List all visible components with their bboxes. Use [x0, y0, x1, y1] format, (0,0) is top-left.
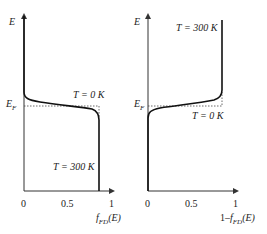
right-x-sub: FD: [233, 218, 242, 226]
left-tick-1: 1: [109, 198, 114, 209]
right-ef-label: EF: [134, 98, 144, 112]
fermi-dirac-plots: [0, 0, 267, 234]
left-t0-annotation: T = 0 K: [73, 89, 104, 100]
right-x-arg: (E): [242, 212, 255, 223]
left-y-label: E: [9, 16, 15, 27]
right-y-label: E: [134, 16, 140, 27]
left-x-sub: FD: [99, 218, 108, 226]
left-x-arg: (E): [108, 212, 121, 223]
right-t0-annotation: T = 0 K: [192, 110, 223, 121]
left-ef-sub: F: [12, 104, 16, 112]
right-ef-sub: F: [140, 104, 144, 112]
right-x-prefix: 1–: [220, 212, 230, 223]
left-x-label: fFD(E): [96, 212, 121, 226]
right-tick-0: 0: [145, 198, 150, 209]
left-tick-0: 0: [21, 198, 26, 209]
right-plot: [148, 16, 236, 191]
right-tick-1: 1: [233, 198, 238, 209]
left-t300-annotation: T = 300 K: [53, 161, 94, 172]
left-ef-label: EF: [6, 98, 16, 112]
right-t300-annotation: T = 300 K: [176, 22, 217, 33]
right-x-label: 1–fFD(E): [220, 212, 255, 226]
left-tick-05: 0.5: [61, 198, 74, 209]
right-tick-05: 0.5: [185, 198, 198, 209]
right-t300-curve: [148, 20, 222, 191]
